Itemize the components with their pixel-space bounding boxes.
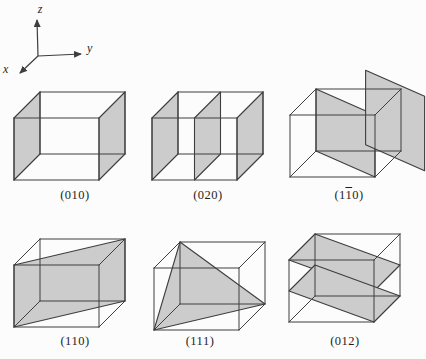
cube-edge — [289, 296, 315, 322]
label-text: (1 — [334, 188, 345, 202]
plane-label-110: (110) — [40, 334, 110, 349]
plane-label-010: (010) — [40, 188, 110, 203]
shaded-plane-corner-triangle — [154, 242, 265, 330]
label-text: (111) — [186, 334, 215, 348]
plane-label-020: (020) — [173, 188, 243, 203]
label-text: 0) — [352, 188, 363, 202]
shaded-plane-mid-plane-y05 — [195, 92, 221, 180]
cube-figure-010 — [8, 68, 150, 186]
plane-label-012: (012) — [310, 334, 380, 349]
label-text: (110) — [60, 334, 89, 348]
cube-edge — [374, 234, 400, 260]
y-axis-line — [38, 54, 81, 56]
cube-edge — [290, 89, 316, 115]
cube-figure-012 — [283, 210, 425, 328]
cube-figure-1bar10 — [284, 65, 426, 183]
cube-figure-111 — [148, 218, 290, 336]
shaded-plane-diagonal-plane — [14, 239, 125, 327]
plane-label-1bar10: (110) — [314, 188, 384, 203]
cube-edge — [290, 151, 316, 177]
cube-edge — [239, 242, 265, 268]
plane-label-111: (111) — [165, 334, 235, 349]
z-axis-line — [37, 20, 38, 56]
label-text: (020) — [193, 188, 223, 202]
cube-figure-020 — [146, 68, 288, 186]
z-axis-label: z — [37, 2, 43, 16]
miller-planes-figure: z y x (010) (020) (110) (110) (111) (012… — [0, 0, 426, 359]
label-text: (010) — [60, 188, 90, 202]
cube-figure-110 — [8, 215, 150, 333]
label-text: (012) — [330, 334, 360, 348]
y-axis-label: y — [86, 41, 93, 55]
